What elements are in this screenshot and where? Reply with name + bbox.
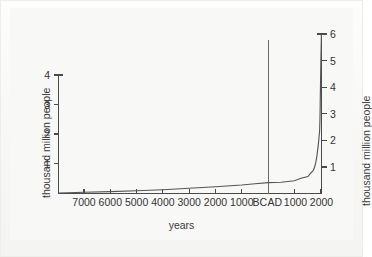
population-line-chart: 4 3 2 1 7000 6000 50	[10, 8, 353, 240]
x-tick-label-5000: 5000	[125, 196, 149, 208]
x-tick-label-4000: 4000	[151, 196, 175, 208]
right-tick-label-1: 1	[330, 161, 336, 173]
right-tick-label-4: 4	[330, 81, 336, 93]
x-tick-label-ad: AD	[268, 196, 283, 208]
left-tick-label-4: 4	[44, 69, 50, 81]
x-tick-label-2000ad: 2000	[310, 196, 334, 208]
population-curve	[59, 35, 322, 193]
x-tick-label-1000bc: 1000	[230, 196, 254, 208]
x-tick-label-bc: BC	[252, 196, 267, 208]
x-tick-label-7000: 7000	[72, 196, 96, 208]
x-tick-label-6000: 6000	[99, 196, 123, 208]
right-axis-title: thousand million people	[360, 96, 372, 206]
right-tick-label-6: 6	[330, 28, 336, 40]
left-axis-title: thousand million people	[40, 88, 52, 198]
right-tick-label-2: 2	[330, 134, 336, 146]
x-tick-label-3000: 3000	[178, 196, 202, 208]
x-tick-label-1000ad: 1000	[284, 196, 308, 208]
plot-area: 4 3 2 1 7000 6000 50	[10, 8, 353, 240]
x-axis-title: years	[10, 219, 353, 231]
x-tick-label-2000bc: 2000	[204, 196, 228, 208]
right-tick-label-5: 5	[330, 55, 336, 67]
right-tick-label-3: 3	[330, 108, 336, 120]
